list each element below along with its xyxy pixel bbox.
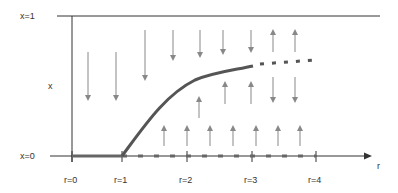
- x-equals-0-label: x=0: [20, 152, 35, 161]
- tick-label-r3: r=3: [244, 176, 257, 185]
- bifurcation-diagram: [0, 0, 398, 193]
- tick-label-r2: r=2: [179, 176, 192, 185]
- unstable-curve: [260, 60, 315, 64]
- tick-label-r4: r=4: [308, 176, 321, 185]
- r-axis-label: r: [377, 162, 380, 171]
- up-arrows: [164, 32, 300, 146]
- tick-label-r0: r=0: [64, 176, 77, 185]
- x-equals-1-label: x=1: [20, 12, 35, 21]
- tick-label-r1: r=1: [114, 176, 127, 185]
- x-axis-label: x: [48, 82, 53, 91]
